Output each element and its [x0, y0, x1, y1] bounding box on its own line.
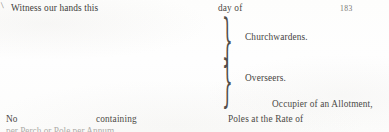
page-number: 183	[340, 5, 353, 13]
curly-brace-icon: }	[222, 55, 233, 110]
poles-rate-text: Poles at the Rate of	[228, 115, 303, 124]
number-field-label: No	[6, 115, 18, 124]
brace-label-churchwardens: Churchwardens.	[245, 33, 308, 42]
document-page: \ Witness our hands this day of 183 } Ch…	[0, 0, 389, 132]
stray-ink-mark: \	[1, 1, 9, 10]
clipped-bottom-line: per Perch or Pole per Annum	[6, 126, 114, 132]
brace-label-overseers: Overseers.	[245, 74, 286, 83]
containing-label: containing	[96, 115, 137, 124]
occupier-text: Occupier of an Allotment,	[272, 100, 373, 109]
witness-clause-text: Witness our hands this	[11, 4, 98, 13]
paper-texture	[0, 0, 389, 132]
